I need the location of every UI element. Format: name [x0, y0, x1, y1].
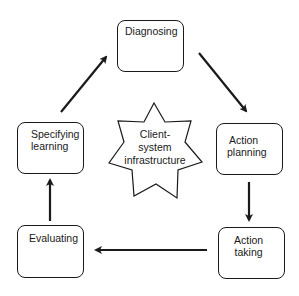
arrow-diagnosing-to-action-planning: [199, 53, 246, 111]
node-action-taking-label: Action taking: [234, 234, 263, 258]
label-line: Specifying: [31, 128, 79, 140]
label-line: system: [115, 141, 195, 154]
label-line: planning: [227, 146, 267, 158]
label-line: Client-: [115, 128, 195, 141]
center-star-label: Client- system infrastructure: [115, 128, 195, 167]
label-line: Diagnosing: [125, 25, 178, 37]
arrow-specifying-learning-to-diagnosing: [61, 57, 106, 112]
node-evaluating-label: Evaluating: [29, 232, 78, 244]
label-line: Evaluating: [29, 232, 78, 244]
node-specifying-learning-label: Specifying learning: [31, 128, 79, 152]
label-line: infrastructure: [115, 154, 195, 167]
node-action-planning-label: Action planning: [229, 134, 267, 158]
label-line: learning: [31, 140, 79, 152]
node-diagnosing-label: Diagnosing: [125, 25, 178, 37]
label-line: Action: [234, 234, 263, 246]
label-line: Action: [229, 134, 267, 146]
label-line: taking: [234, 246, 263, 258]
